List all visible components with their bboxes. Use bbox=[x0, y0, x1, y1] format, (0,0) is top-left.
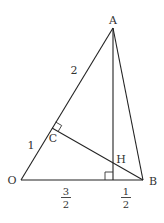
label-O: O bbox=[7, 174, 16, 187]
segment-BC bbox=[52, 128, 143, 180]
fraction-1-2-num: 1 bbox=[123, 186, 129, 197]
fraction-3-2-num: 3 bbox=[63, 186, 69, 197]
right-angle-marker-foot bbox=[105, 172, 113, 180]
length-AC: 2 bbox=[71, 64, 78, 77]
label-A: A bbox=[108, 14, 118, 27]
label-H: H bbox=[116, 153, 126, 166]
segment-OA bbox=[21, 28, 113, 180]
label-B: B bbox=[149, 175, 157, 188]
fraction-3-2-den: 2 bbox=[63, 199, 69, 210]
label-C: C bbox=[49, 132, 57, 145]
length-CO: 1 bbox=[28, 139, 35, 152]
geometry-diagram: A O B C H 2 1 3 2 1 2 bbox=[0, 0, 164, 223]
fraction-1-2-den: 2 bbox=[123, 199, 129, 210]
